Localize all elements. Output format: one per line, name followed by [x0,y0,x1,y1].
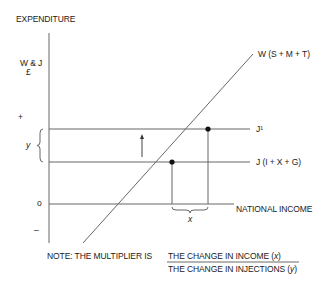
x-brace-label: x [188,214,192,224]
equilibrium-point-initial [169,159,174,164]
arrow-up-icon [140,134,144,139]
y-axis-label: W & J [20,58,42,68]
denominator-text: THE CHANGE IN INJECTIONS ( [168,264,290,274]
y-brace [37,129,43,162]
fraction-denominator: THE CHANGE IN INJECTIONS (y) [168,264,297,274]
equilibrium-point-new [205,126,210,131]
fraction-numerator: THE CHANGE IN INCOME (x) [168,251,281,261]
y-axis-title: EXPENDITURE [16,14,75,24]
line-j-label: J (I + X + G) [256,157,301,167]
currency-label: £ [26,67,31,77]
minus-marker: – [34,225,39,235]
numerator-text: THE CHANGE IN INCOME ( [168,251,274,261]
zero-marker: o [37,198,42,208]
multiplier-diagram [0,0,330,284]
line-w-label: W (S + M + T) [258,49,310,59]
y-brace-label: y [26,140,30,150]
x-brace [172,207,208,213]
plus-marker: + [18,112,23,122]
withdrawals-line-w [83,54,253,243]
numerator-close: ) [278,251,281,261]
denominator-close: ) [294,264,297,274]
x-axis-label: NATIONAL INCOME [236,204,312,214]
note-prefix: NOTE: THE MULTIPLIER IS [47,251,152,261]
line-j1-label: J¹ [256,124,263,134]
